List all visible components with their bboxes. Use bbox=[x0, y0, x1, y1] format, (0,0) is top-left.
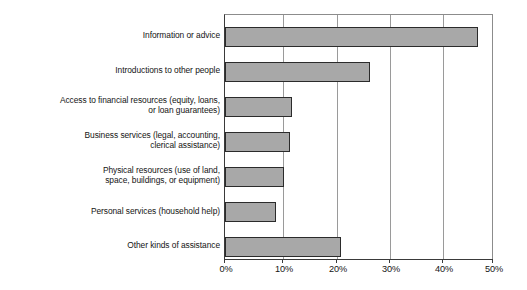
x-axis-line bbox=[224, 259, 493, 260]
x-tick-label-40: 40% bbox=[424, 264, 464, 275]
gridline-20 bbox=[337, 15, 338, 259]
tick-mark-40 bbox=[442, 259, 443, 263]
category-labels: Information or advice Introductions to o… bbox=[8, 14, 220, 260]
category-label-information-or-advice: Information or advice bbox=[8, 30, 220, 40]
gridline-30 bbox=[390, 15, 391, 259]
x-tick-label-30: 30% bbox=[371, 264, 411, 275]
category-label-introductions-to-other-people: Introductions to other people bbox=[8, 65, 220, 75]
category-label-business-services: Business services (legal, accounting, cl… bbox=[8, 130, 220, 151]
tick-mark-50 bbox=[492, 259, 493, 263]
tick-mark-30 bbox=[389, 259, 390, 263]
bar-personal-services bbox=[225, 202, 276, 222]
gridline-40 bbox=[443, 15, 444, 259]
tick-mark-20 bbox=[336, 259, 337, 263]
x-tick-label-10: 10% bbox=[264, 264, 304, 275]
category-label-physical-resources: Physical resources (use of land, space, … bbox=[8, 165, 220, 186]
x-tick-label-50: 50% bbox=[474, 264, 514, 275]
bar-physical-resources bbox=[225, 167, 284, 187]
bar-other-kinds-of-assistance bbox=[225, 237, 341, 257]
x-tick-label-0: 0% bbox=[206, 264, 246, 275]
tick-mark-0 bbox=[224, 259, 225, 263]
tick-mark-10 bbox=[282, 259, 283, 263]
bar-access-to-financial-resources bbox=[225, 97, 292, 117]
category-label-access-to-financial-resources: Access to financial resources (equity, l… bbox=[8, 95, 220, 116]
x-tick-label-20: 20% bbox=[318, 264, 358, 275]
bar-introductions-to-other-people bbox=[225, 62, 370, 82]
plot-area bbox=[224, 14, 493, 260]
bar-business-services bbox=[225, 132, 290, 152]
category-label-other-kinds-of-assistance: Other kinds of assistance bbox=[8, 240, 220, 250]
horizontal-bar-chart: Information or advice Introductions to o… bbox=[0, 0, 527, 290]
bar-information-or-advice bbox=[225, 27, 478, 47]
category-label-personal-services: Personal services (household help) bbox=[8, 206, 220, 216]
